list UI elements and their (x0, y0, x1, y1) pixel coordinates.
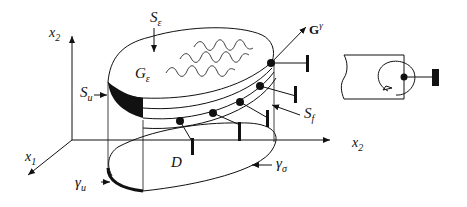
D-label: D (170, 154, 182, 170)
G-eps-label: Gε (135, 65, 150, 84)
rotation-arrowhead-icon (383, 86, 392, 90)
S-f-arrow (272, 105, 300, 115)
gamma-u-label: γu (75, 174, 86, 193)
x1-label: x1 (24, 149, 36, 167)
G-gamma-label: Gγ (309, 20, 323, 37)
x2-horizontal-label: x2 (351, 135, 363, 153)
spring-detail-inset (341, 55, 439, 99)
x2-vertical-label: x2 (48, 25, 60, 43)
inset-support-block (432, 69, 439, 86)
gamma-sigma-curve (109, 123, 276, 191)
body-edge-layer3 (143, 72, 274, 119)
body-edge-layer2 (143, 68, 272, 109)
body-edge-upper (108, 62, 272, 98)
diagram-canvas: x2 x1 x2 Sε Gε Su Sf D γu γσ Gγ (0, 0, 467, 207)
G-gamma-arrow (268, 27, 306, 66)
domain-D-boundary (108, 123, 276, 191)
gamma-u-curve (108, 168, 143, 191)
S-u-region (108, 82, 143, 118)
S-u-label: Su (80, 84, 93, 103)
gamma-sigma-label: γσ (276, 155, 288, 174)
elastic-body-diagram: x2 x1 x2 Sε Gε Su Sf D γu γσ Gγ (0, 0, 467, 207)
S-eps-label: Sε (150, 9, 162, 28)
wave-lines (166, 40, 253, 77)
S-f-label: Sf (304, 105, 316, 124)
